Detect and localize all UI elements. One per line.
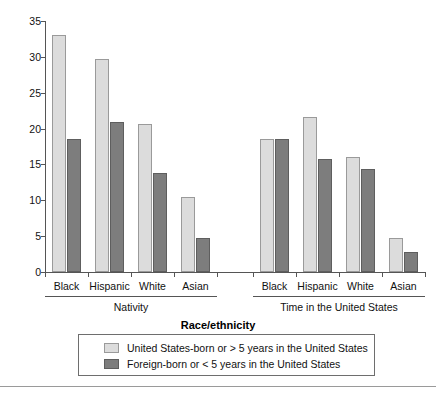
legend-item-us-born: United States-born or > 5 years in the U…: [104, 341, 368, 355]
y-tick-mark: [41, 164, 46, 165]
x-tick-mark: [425, 272, 426, 277]
x-category-label: Asian: [174, 280, 217, 292]
y-tick-label: 35: [15, 16, 41, 26]
legend-label-foreign-born: Foreign-born or < 5 years in the United …: [127, 359, 340, 370]
y-tick-mark: [41, 200, 46, 201]
y-tick-label: 30: [15, 52, 41, 62]
y-tick-label: 10: [15, 195, 41, 205]
x-category-label: Black: [253, 280, 296, 292]
panel-label: Nativity: [25, 301, 237, 313]
y-tick-label: 25: [15, 88, 41, 98]
plot-area: 05101520253035: [45, 21, 425, 272]
x-tick-mark: [296, 272, 297, 277]
x-tick-mark: [88, 272, 89, 277]
y-tick-mark: [41, 57, 46, 58]
x-category-label: Asian: [382, 280, 425, 292]
x-tick-mark: [253, 272, 254, 277]
x-tick-mark: [174, 272, 175, 277]
light-swatch: [104, 343, 119, 353]
x-axis-line: [45, 272, 425, 273]
bar: [52, 35, 66, 272]
x-category-label: White: [131, 280, 174, 292]
x-tick-mark: [45, 272, 46, 277]
y-tick-mark: [41, 93, 46, 94]
dark-swatch: [104, 359, 119, 369]
panel-label: Time in the United States: [233, 301, 436, 313]
bar: [95, 59, 109, 272]
bar: [153, 173, 167, 272]
bar: [67, 139, 81, 272]
bottom-divider: [0, 386, 436, 387]
bar: [303, 117, 317, 272]
bar: [181, 197, 195, 272]
bar: [275, 139, 289, 272]
y-tick-label: 15: [15, 159, 41, 169]
x-axis-title: Race/ethnicity: [0, 319, 436, 331]
y-tick-mark: [41, 21, 46, 22]
bar: [389, 238, 403, 272]
chart-legend: United States-born or > 5 years in the U…: [78, 334, 375, 376]
bar: [361, 169, 375, 272]
y-tick-label: 5: [15, 231, 41, 241]
bar: [346, 157, 360, 272]
bar: [318, 159, 332, 272]
x-category-label: Black: [45, 280, 88, 292]
panel-rule: [45, 296, 217, 297]
legend-item-foreign-born: Foreign-born or < 5 years in the United …: [104, 357, 340, 371]
bar: [196, 238, 210, 272]
x-category-label: White: [339, 280, 382, 292]
y-tick-mark: [41, 129, 46, 130]
bar: [138, 124, 152, 272]
x-tick-mark: [339, 272, 340, 277]
y-tick-mark: [41, 236, 46, 237]
x-category-label: Hispanic: [88, 280, 131, 292]
x-tick-mark: [217, 272, 218, 277]
x-category-label: Hispanic: [296, 280, 339, 292]
x-tick-mark: [131, 272, 132, 277]
bar: [404, 252, 418, 272]
y-tick-label: 20: [15, 124, 41, 134]
y-tick-label: 0: [15, 267, 41, 277]
x-tick-mark: [382, 272, 383, 277]
legend-label-us-born: United States-born or > 5 years in the U…: [127, 343, 368, 354]
chart-figure: 05101520253035 BlackHispanicWhiteAsianBl…: [0, 0, 436, 396]
bar: [110, 122, 124, 272]
bar: [260, 139, 274, 272]
panel-rule: [253, 296, 425, 297]
